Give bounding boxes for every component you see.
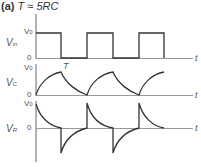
vc-x-label: t [195,91,198,100]
vin-y-label: Vin [6,38,17,48]
vc-tick-zero: 0 [27,91,31,99]
vc-plot [36,64,193,96]
vin-x-label: t [195,54,198,63]
vin-tick-zero: 0 [27,54,31,62]
vr-tick-zero: 0 [27,124,31,132]
vr-x-label: t [195,124,198,133]
vr-y-label: VR [6,124,17,134]
vc-charge-curve [36,72,164,95]
vc-y-label: VC [6,78,17,88]
vc-period-annotation: T [63,62,69,71]
vin-plot [36,14,193,59]
vr-plot [36,101,193,162]
vc-tick-v0: V0 [24,64,33,72]
vin-tick-v0: V0 [24,28,33,36]
rc-waveforms-diagram [0,0,201,167]
vr-tick-v0: V0 [24,100,33,108]
vin-square-wave [36,33,164,58]
